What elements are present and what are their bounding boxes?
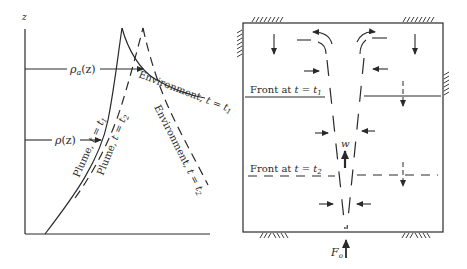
environment-t2-label: Environment, t = t2 xyxy=(150,103,207,198)
rho-a-label: ρa(z) xyxy=(69,63,96,77)
rho-label: ρ(z) xyxy=(54,134,76,147)
container-box xyxy=(243,23,443,232)
z-axis-label: z xyxy=(21,12,27,22)
diagram-canvas: z ρa(z) ρ(z) Plume, t = t1 Plume, t = t2… xyxy=(0,0,467,269)
source-flux-label: Fo xyxy=(330,246,343,260)
environment-curve-t2 xyxy=(143,28,208,185)
velocity-label-w: w xyxy=(341,138,350,149)
plume-top-left-curl xyxy=(318,42,326,54)
front-t2-label: Front at t = t2 xyxy=(250,163,322,176)
front-t1-label: Front at t = t1 xyxy=(250,84,322,97)
environment-t1-label: Environment, t = t1 xyxy=(137,69,234,117)
spread-arrow-left xyxy=(313,32,332,44)
plume-top-right-curl xyxy=(360,40,366,54)
